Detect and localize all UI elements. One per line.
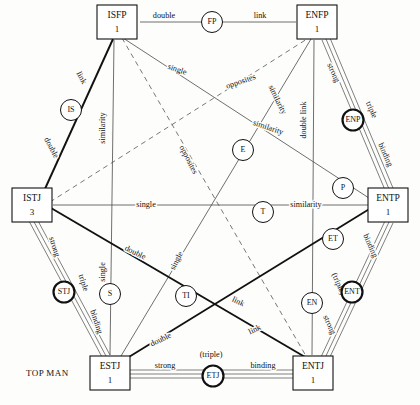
edge-istj-enfp-opposites <box>50 39 307 202</box>
edge-label: double link <box>299 101 308 139</box>
relation-circle-label: P <box>341 183 346 192</box>
edge-label: binding <box>250 361 275 370</box>
edge-label: opposites <box>178 144 200 176</box>
type-node-label: ENFP <box>305 10 328 20</box>
edge-label: strong <box>325 62 342 84</box>
relation-circle-s[interactable]: S <box>100 284 121 305</box>
edge-label: double <box>42 136 61 160</box>
relation-circle-e[interactable]: E <box>233 140 254 161</box>
edge-label: double <box>123 244 147 262</box>
relation-circle-enp[interactable]: ENP <box>343 110 364 131</box>
edge-label: double <box>153 11 176 20</box>
edge-label: link <box>254 11 268 20</box>
type-node-label: ISFP <box>107 10 126 20</box>
relation-circle-label: E <box>241 145 246 154</box>
type-node-entp[interactable]: ENTP1 <box>368 188 408 222</box>
relation-circle-fp[interactable]: FP <box>202 12 223 33</box>
relation-circle-label: FP <box>208 17 217 26</box>
edge-label: similarity <box>267 84 289 117</box>
edge-enfp-estj <box>121 39 311 356</box>
type-node-entj[interactable]: ENTJ1 <box>293 356 333 390</box>
edge-label: similarity <box>252 118 285 137</box>
edge-label: strong <box>321 314 338 336</box>
type-node-label: ISTJ <box>23 193 41 203</box>
relation-circle-p[interactable]: P <box>333 178 354 199</box>
edge-label: similarity <box>98 111 107 143</box>
relation-circle-en[interactable]: EN <box>302 293 323 314</box>
type-node-count: 1 <box>315 24 320 34</box>
relation-circle-etj[interactable]: ETJ <box>203 366 224 387</box>
relation-circle-label: S <box>108 289 112 298</box>
relation-circle-label: STJ <box>58 287 70 296</box>
type-node-count: 1 <box>108 375 113 385</box>
relation-circle-ent[interactable]: ENT <box>342 282 363 303</box>
type-node-count: 1 <box>115 24 120 34</box>
edge-label: similarity <box>290 200 322 209</box>
relation-circle-label: TI <box>182 291 190 300</box>
edge-label: single <box>168 250 185 272</box>
relation-circle-stj[interactable]: STJ <box>54 282 75 303</box>
edge-label: single <box>98 262 107 282</box>
diagram-canvas: doubledoublelinklinklinklinkdoubledouble… <box>0 0 420 405</box>
edge-label: single <box>166 62 188 77</box>
type-node-enfp[interactable]: ENFP1 <box>297 5 337 39</box>
edge-label: single <box>136 200 156 209</box>
edge-label: triple <box>364 100 379 120</box>
relation-circle-label: ETJ <box>207 371 220 380</box>
edge-group-rails <box>29 38 393 378</box>
edge-label: link <box>75 70 89 86</box>
type-node-label: ENTP <box>376 193 400 203</box>
edge-label: opposites <box>225 72 257 91</box>
relationship-graph: doubledoublelinklinklinklinkdoubledouble… <box>0 0 420 405</box>
edge-label: triple <box>77 273 91 293</box>
relation-circle-ti[interactable]: TI <box>176 286 197 307</box>
relation-circle-label: EN <box>307 298 318 307</box>
relation-circle-label: ET <box>328 234 338 243</box>
relation-circle-label: IS <box>67 105 74 114</box>
type-node-count: 1 <box>311 375 316 385</box>
node-layer: ISFP1ENFP1ENTP1ENTJ1ESTJ1ISTJ3 <box>12 5 408 390</box>
type-node-isfp[interactable]: ISFP1 <box>97 5 137 39</box>
edge-label: (triple) <box>200 350 223 359</box>
relation-circle-is[interactable]: IS <box>61 100 82 121</box>
edge-label: link <box>231 295 247 309</box>
top-man-caption: TOP MAN <box>26 368 69 378</box>
type-node-istj[interactable]: ISTJ3 <box>12 188 52 222</box>
edge-label: strong <box>47 236 62 258</box>
type-node-count: 1 <box>386 207 391 217</box>
edge-isfp-estj <box>110 40 114 355</box>
relation-circle-t[interactable]: T <box>253 202 274 223</box>
type-node-estj[interactable]: ESTJ1 <box>90 356 130 390</box>
edge-label: binding <box>88 309 104 336</box>
edge-label: double <box>149 330 173 348</box>
type-node-label: ENTJ <box>302 361 324 371</box>
edge-label: strong <box>155 361 175 370</box>
type-node-count: 3 <box>30 207 35 217</box>
relation-circle-label: ENP <box>345 115 361 124</box>
edge-label: binding <box>361 232 379 259</box>
relation-circle-et[interactable]: ET <box>323 229 344 250</box>
type-node-label: ESTJ <box>100 361 121 371</box>
relation-circle-label: ENT <box>344 287 360 296</box>
relation-circle-label: T <box>261 207 266 216</box>
